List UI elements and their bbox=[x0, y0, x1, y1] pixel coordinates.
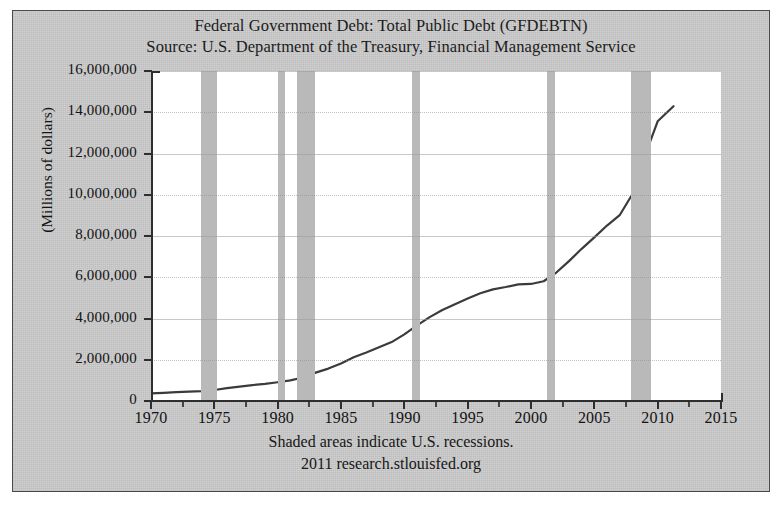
y-tick bbox=[144, 276, 152, 278]
x-tick-minor bbox=[625, 402, 627, 407]
y-tick-label: 12,000,000 bbox=[17, 144, 137, 161]
x-tick-label: 1980 bbox=[248, 409, 308, 427]
x-tick bbox=[340, 402, 342, 409]
x-tick-minor bbox=[245, 402, 247, 407]
y-tick-label: 10,000,000 bbox=[17, 185, 137, 202]
y-tick-label: 16,000,000 bbox=[17, 61, 137, 78]
y-tick bbox=[144, 194, 152, 196]
gridline bbox=[151, 360, 721, 361]
x-axis-line bbox=[151, 400, 723, 402]
recession-note: Shaded areas indicate U.S. recessions. bbox=[13, 433, 769, 451]
y-tick bbox=[144, 111, 152, 113]
source-credit: 2011 research.stlouisfed.org bbox=[13, 455, 769, 473]
gridline bbox=[151, 112, 721, 113]
y-tick bbox=[144, 153, 152, 155]
x-tick bbox=[150, 402, 152, 409]
gridline bbox=[151, 236, 721, 237]
x-tick-label: 2005 bbox=[564, 409, 624, 427]
x-tick-minor bbox=[435, 402, 437, 407]
x-tick bbox=[403, 402, 405, 409]
x-tick-minor bbox=[372, 402, 374, 407]
y-tick-label: 14,000,000 bbox=[17, 102, 137, 119]
x-tick-label: 1970 bbox=[121, 409, 181, 427]
gridline bbox=[151, 154, 721, 155]
gridline bbox=[151, 277, 721, 278]
y-tick bbox=[144, 359, 152, 361]
y-tick-label: 2,000,000 bbox=[17, 350, 137, 367]
y-tick-label: 0 bbox=[17, 391, 137, 408]
plot-area bbox=[151, 71, 721, 401]
x-axis-right-cap bbox=[721, 393, 723, 402]
chart-figure: Federal Government Debt: Total Public De… bbox=[12, 10, 770, 492]
x-tick bbox=[657, 402, 659, 409]
plot-clip bbox=[151, 71, 721, 401]
x-tick-minor bbox=[308, 402, 310, 407]
y-axis-top-cap bbox=[151, 71, 160, 73]
gridline bbox=[151, 319, 721, 320]
chart-title-block: Federal Government Debt: Total Public De… bbox=[13, 15, 769, 58]
x-tick-label: 1990 bbox=[374, 409, 434, 427]
x-tick-minor bbox=[562, 402, 564, 407]
gridline bbox=[151, 195, 721, 196]
y-tick-label: 6,000,000 bbox=[17, 267, 137, 284]
x-tick-label: 2000 bbox=[501, 409, 561, 427]
x-tick-label: 1985 bbox=[311, 409, 371, 427]
x-tick-minor bbox=[498, 402, 500, 407]
y-tick bbox=[144, 318, 152, 320]
chart-source-line: Source: U.S. Department of the Treasury,… bbox=[13, 36, 769, 58]
y-tick bbox=[144, 70, 152, 72]
x-tick-minor bbox=[688, 402, 690, 407]
x-tick bbox=[467, 402, 469, 409]
gridline bbox=[151, 71, 721, 72]
y-tick-label: 8,000,000 bbox=[17, 226, 137, 243]
x-tick-minor bbox=[182, 402, 184, 407]
x-tick bbox=[530, 402, 532, 409]
x-tick bbox=[213, 402, 215, 409]
x-tick-label: 1995 bbox=[438, 409, 498, 427]
y-axis-title: (Millions of dollars) bbox=[38, 60, 56, 280]
x-tick-label: 2010 bbox=[628, 409, 688, 427]
x-tick bbox=[277, 402, 279, 409]
y-tick bbox=[144, 235, 152, 237]
x-tick-label: 1975 bbox=[184, 409, 244, 427]
x-tick bbox=[720, 402, 722, 409]
y-tick-label: 4,000,000 bbox=[17, 309, 137, 326]
x-tick bbox=[593, 402, 595, 409]
x-tick-label: 2015 bbox=[691, 409, 751, 427]
chart-title: Federal Government Debt: Total Public De… bbox=[13, 15, 769, 36]
